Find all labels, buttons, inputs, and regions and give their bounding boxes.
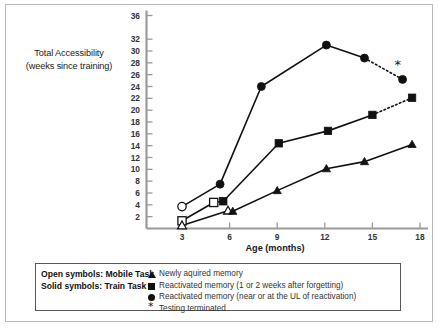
data-point-circle [216, 180, 224, 188]
testing-terminated-marker: * [395, 57, 402, 72]
data-point-square [275, 140, 282, 147]
series-segment [279, 131, 328, 143]
series-segment [220, 87, 261, 185]
legend-entry-label: Newly aquired memory [159, 269, 243, 278]
legend-entry-label: Testing terminated [159, 304, 226, 313]
legend-note-1: Open symbols: Mobile Task [41, 269, 154, 279]
series-segment [261, 45, 326, 86]
data-point-square [220, 198, 227, 205]
legend-asterisk-icon: * [148, 303, 154, 310]
legend-entry-label: Reactivated memory (1 or 2 weeks after f… [159, 281, 343, 290]
data-point-square [324, 127, 331, 134]
data-point-circle [399, 75, 407, 83]
series-segment [182, 202, 214, 220]
series-segment [223, 143, 279, 201]
data-point-circle [360, 54, 368, 62]
series-segment [328, 115, 372, 131]
data-point-circle [322, 41, 330, 49]
series-segment [277, 169, 326, 191]
series-markers [178, 41, 417, 229]
series-segment [364, 144, 412, 161]
series-segment [372, 98, 412, 115]
legend-entry-label: Reactivated memory (near or at the UL of… [159, 292, 356, 301]
legend-triangle-icon [148, 271, 156, 278]
series-segment [182, 211, 228, 226]
plot-annotations: * [395, 57, 402, 72]
legend: Open symbols: Mobile TaskSolid symbols: … [35, 263, 401, 311]
figure-container: Total Accessibility (weeks since trainin… [0, 0, 439, 329]
legend-note-2: Solid symbols: Train Task [41, 281, 146, 291]
legend-square-icon [148, 283, 155, 290]
axis-lines [147, 11, 429, 229]
data-point-circle [178, 202, 186, 210]
data-point-square [210, 198, 218, 206]
data-point-triangle-up [408, 140, 416, 147]
data-point-circle [257, 83, 265, 91]
axis-tick-marks [147, 16, 421, 229]
data-point-square [369, 111, 376, 118]
series-segment [233, 191, 277, 212]
series-segment [326, 45, 364, 58]
series-segment [326, 162, 364, 169]
data-point-square [408, 94, 415, 101]
